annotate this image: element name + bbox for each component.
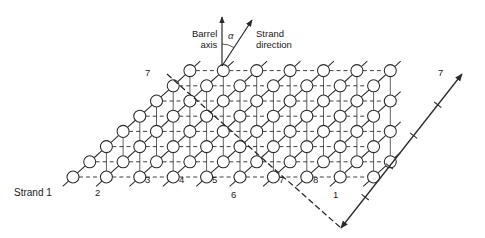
strand-label-8: 1 (333, 190, 338, 200)
strand-label-9: 7 (145, 68, 150, 78)
strand-label-2: 3 (145, 175, 150, 185)
strand-direction-label: Strand direction (256, 28, 292, 50)
strand-label-5: 6 (231, 190, 236, 200)
strand-backbone-lines-group (63, 61, 401, 186)
strand-label-7: 8 (313, 175, 318, 185)
strand-label-4: 5 (212, 175, 217, 185)
axis-inset-group (222, 17, 252, 66)
strand-label-6: 7 (279, 175, 284, 185)
strand-label-3: 4 (179, 175, 184, 185)
figure-canvas: Barrel axis Strand direction α Strand 12… (0, 0, 485, 238)
alpha-angle-symbol: α (228, 30, 233, 41)
strand-label-1: 2 (95, 188, 100, 198)
strand-label-0: Strand 1 (14, 188, 52, 198)
beta-barrel-lattice-svg (0, 0, 485, 238)
barrel-axis-label: Barrel axis (192, 28, 217, 50)
strand-label-10: 7 (438, 68, 443, 78)
vertical-connector-group (106, 77, 390, 171)
